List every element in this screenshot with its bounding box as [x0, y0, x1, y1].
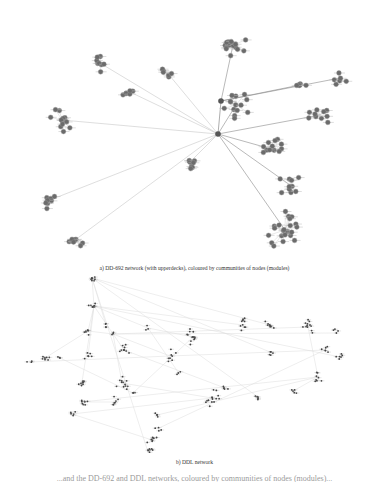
panel-b-caption: b) DDL network [0, 459, 389, 465]
figure-main-caption-cutoff: ...and the DD-692 and DDL networks, colo… [0, 474, 389, 482]
panel-b-network [0, 0, 389, 470]
edges [30, 278, 340, 452]
ddl-network-graph [0, 0, 389, 470]
